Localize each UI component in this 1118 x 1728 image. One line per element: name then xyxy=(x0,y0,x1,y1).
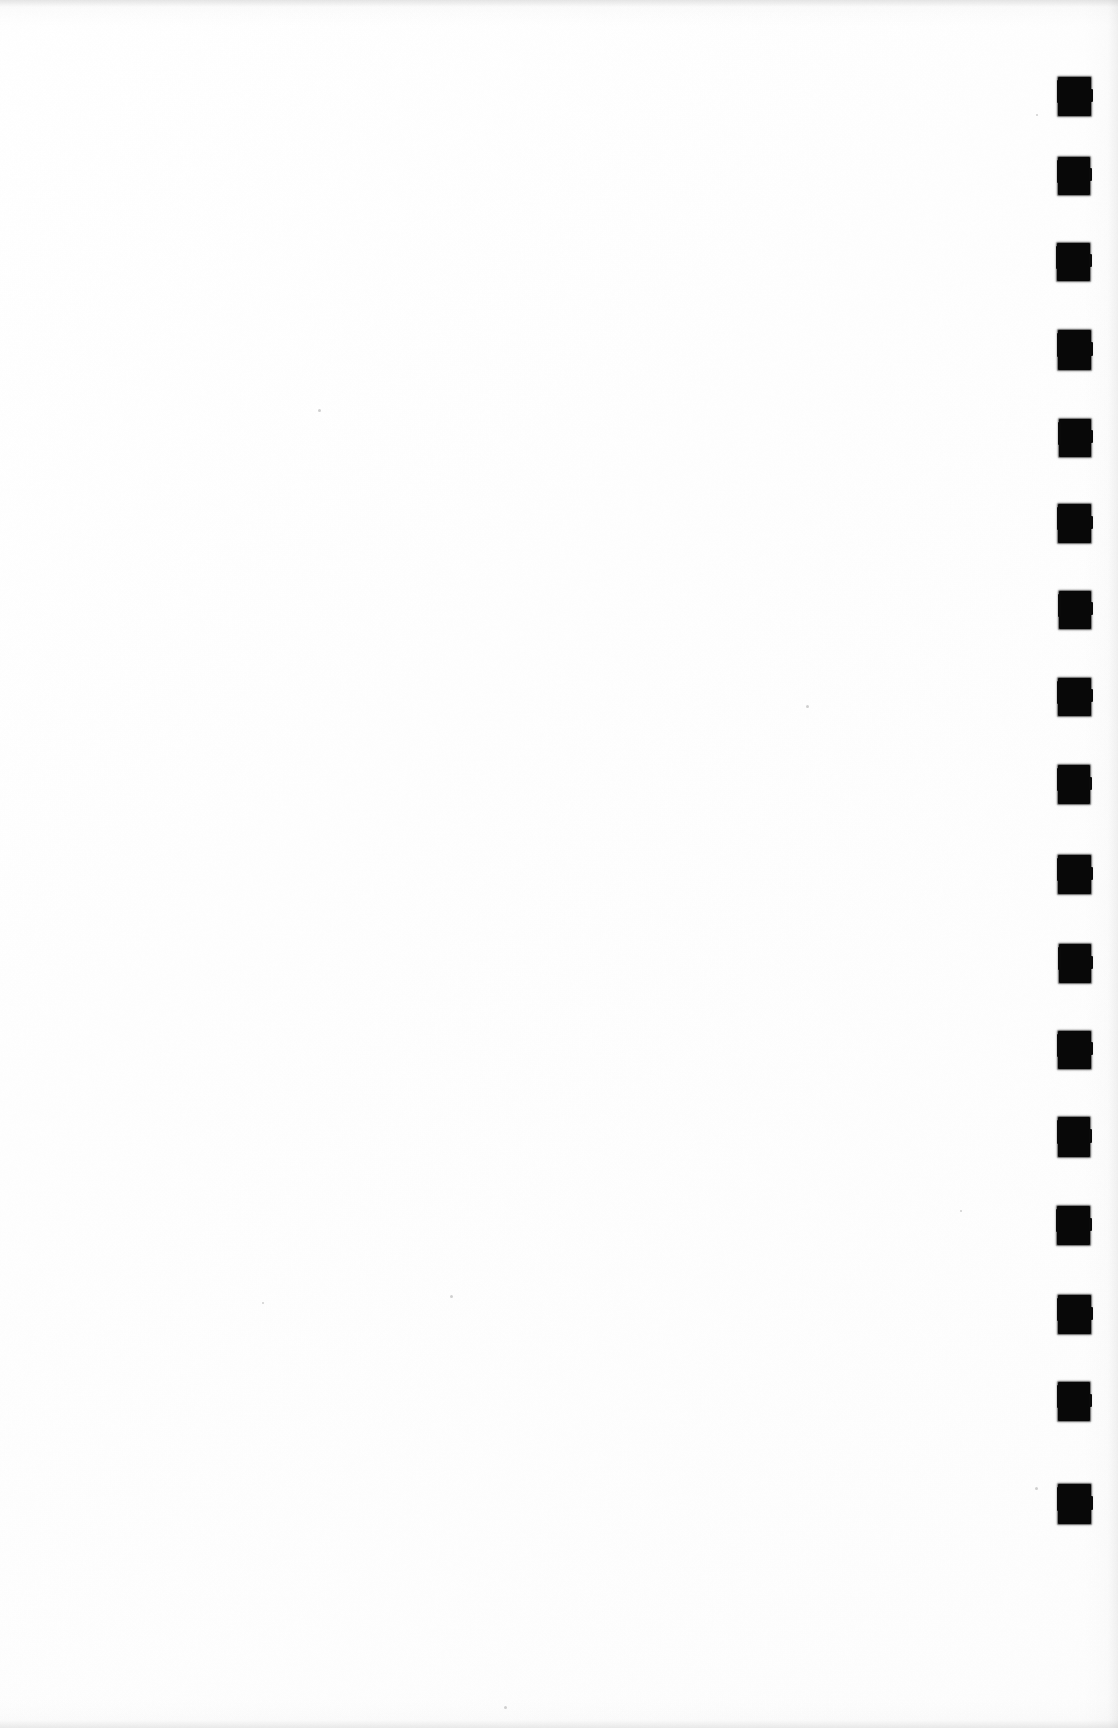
register-mark xyxy=(1059,419,1091,457)
register-mark xyxy=(1058,157,1090,195)
register-mark xyxy=(1058,765,1090,804)
register-mark xyxy=(1058,678,1091,716)
dust-speck xyxy=(1036,114,1038,116)
register-mark xyxy=(1058,855,1091,894)
register-mark xyxy=(1058,1484,1091,1524)
dust-speck xyxy=(1035,1487,1038,1490)
scanned-page xyxy=(0,0,1118,1728)
register-mark xyxy=(1058,1295,1091,1334)
register-mark xyxy=(1058,330,1091,370)
register-mark xyxy=(1058,77,1091,116)
register-mark xyxy=(1059,591,1091,629)
register-mark xyxy=(1057,243,1090,281)
register-mark xyxy=(1058,504,1091,543)
register-mark xyxy=(1057,1206,1090,1245)
register-mark xyxy=(1058,1382,1090,1421)
register-mark xyxy=(1058,1117,1090,1157)
register-mark xyxy=(1058,1031,1091,1069)
dust-speck xyxy=(504,1706,507,1709)
page-body-text xyxy=(96,120,976,1570)
register-mark xyxy=(1059,944,1091,983)
